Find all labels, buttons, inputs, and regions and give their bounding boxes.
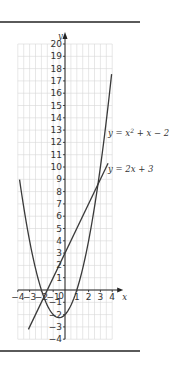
y-tick-label: 11 xyxy=(51,150,62,160)
y-axis-arrow-icon xyxy=(63,32,68,39)
origin-label: 0 xyxy=(58,291,64,301)
y-tick-label: 1 xyxy=(56,273,62,283)
line-label: y = 2x + 3 xyxy=(107,164,153,174)
y-tick-label: 17 xyxy=(51,76,62,86)
y-tick-label: 8 xyxy=(56,187,62,197)
y-axis-label: y xyxy=(57,31,63,41)
y-tick-label: 7 xyxy=(56,199,62,209)
x-tick-label: 4 xyxy=(109,292,115,302)
parabola-curve xyxy=(20,74,112,318)
parabola-label: y = x2 + x − 2 xyxy=(107,127,169,138)
y-tick-label: 19 xyxy=(51,51,63,61)
y-tick-label: 18 xyxy=(51,64,63,74)
y-tick-label: 3 xyxy=(56,248,62,258)
y-tick-label: 9 xyxy=(56,174,62,184)
x-axis-label: x xyxy=(122,292,127,302)
straight-line xyxy=(28,163,108,329)
y-tick-label: 14 xyxy=(51,113,63,123)
y-tick-label: 15 xyxy=(51,101,62,111)
y-tick-label: 13 xyxy=(51,125,62,135)
x-tick-label: 3 xyxy=(98,292,104,302)
y-tick-label: −3 xyxy=(49,322,62,332)
y-tick-label: 10 xyxy=(51,162,63,172)
y-tick-label: 12 xyxy=(51,137,62,147)
y-tick-label: 4 xyxy=(56,236,62,246)
y-tick-label: −4 xyxy=(49,334,63,344)
y-tick-label: 5 xyxy=(56,224,62,234)
y-tick-label: 16 xyxy=(51,88,63,98)
graph: −4−3−2−11234567891011121314151617181920−… xyxy=(0,0,172,372)
y-tick-label: 6 xyxy=(56,211,62,221)
x-tick-label: 2 xyxy=(86,292,92,302)
